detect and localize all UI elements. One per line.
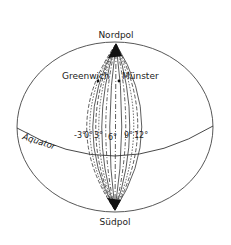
- meridian-label: 12°: [134, 131, 148, 140]
- meridian-label: 0°: [84, 131, 93, 140]
- south-pole-label: Südpol: [100, 217, 131, 227]
- meridian-label: 6°: [108, 133, 117, 142]
- muenster-point: [118, 80, 121, 83]
- muenster-label: Münster: [122, 71, 159, 81]
- meridian-lines: [87, 44, 142, 210]
- meridian-label: 9°: [124, 131, 133, 140]
- globe-diagram: Nordpol Südpol Greenwich Münster Äquator…: [0, 0, 231, 245]
- equator-label: Äquator: [20, 131, 57, 151]
- north-pole-label: Nordpol: [98, 30, 133, 40]
- greenwich-label: Greenwich: [62, 71, 110, 81]
- meridian-label: 3°: [94, 131, 103, 140]
- south-pole-marker: [107, 198, 121, 211]
